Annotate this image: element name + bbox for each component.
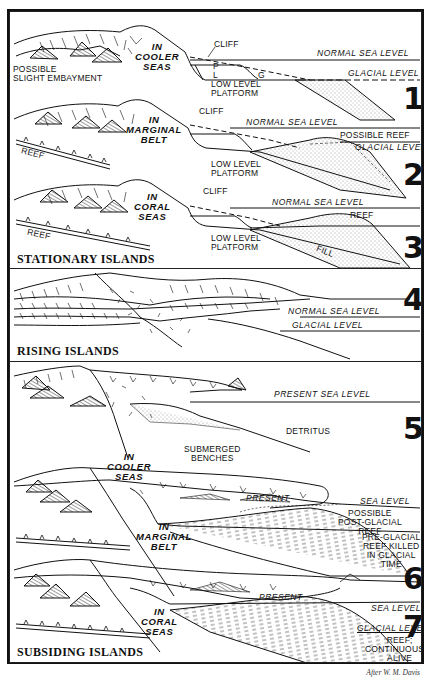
panel-4-glacial-level: GLACIAL LEVEL <box>292 321 363 330</box>
label-line: SLIGHT EMBAYMENT <box>13 74 102 83</box>
panel-2-normal-sea-level: NORMAL SEA LEVEL <box>246 118 338 127</box>
panel-3-number: 3 <box>403 233 422 263</box>
panel-5-detritus-label: DETRITUS <box>286 427 330 436</box>
figure-credit: After W. M. Davis <box>366 668 420 677</box>
panel-3-normal-sea-level: NORMAL SEA LEVEL <box>272 198 364 207</box>
label-line: PLATFORM <box>211 169 261 178</box>
panel-4-normal-sea-level: NORMAL SEA LEVEL <box>288 307 380 316</box>
panel-7-number: 7 <box>403 612 422 642</box>
setting-line: SEAS <box>134 212 171 222</box>
panel-1-glacial-level: GLACIAL LEVEL <box>348 69 419 78</box>
panel-6-number: 6 <box>403 564 422 594</box>
stationary-islands-panel: IN COOLER SEAS POSSIBLE SLIGHT EMBAYMENT… <box>9 11 422 269</box>
setting-line: SEAS <box>141 627 178 637</box>
panel-3-cliff-label: CLIFF <box>203 187 228 196</box>
panel-1-platform-label: LOW LEVEL PLATFORM <box>211 80 261 98</box>
panel-2-cliff-label: CLIFF <box>199 107 224 116</box>
panel-1-embayment-label: POSSIBLE SLIGHT EMBAYMENT <box>13 65 102 83</box>
panel-6-sea-level-label: SEA LEVEL <box>360 497 410 506</box>
panel-7-setting: IN CORAL SEAS <box>141 607 178 637</box>
panel-3-platform-label: LOW LEVEL PLATFORM <box>211 234 261 252</box>
rising-islands-panel: NORMAL SEA LEVEL GLACIAL LEVEL 4 RISING … <box>9 268 422 362</box>
label-line: ALIVE <box>365 654 422 663</box>
panel-1-normal-sea-level: NORMAL SEA LEVEL <box>317 49 409 58</box>
panel-4-number: 4 <box>403 285 422 315</box>
setting-line: SEAS <box>107 472 151 482</box>
panel-6-setting: IN MARGINAL BELT <box>136 522 192 552</box>
subsiding-islands-title: SUBSIDING ISLANDS <box>17 645 143 660</box>
stationary-islands-title: STATIONARY ISLANDS <box>17 252 155 267</box>
panel-2-glacial-level: GLACIAL LEVEL <box>355 143 422 152</box>
subsiding-islands-panel: PRESENT SEA LEVEL IN COOLER SEAS DETRITU… <box>9 361 422 663</box>
setting-line: SEAS <box>135 62 179 72</box>
panel-1-setting: IN COOLER SEAS <box>135 42 179 72</box>
panel-1-cliff-label: CLIFF <box>214 40 239 49</box>
panel-2-number: 2 <box>403 160 422 190</box>
panel-3-setting: IN CORAL SEAS <box>134 192 171 222</box>
label-line: BENCHES <box>184 454 241 463</box>
panel-5-benches-label: SUBMERGED BENCHES <box>184 445 241 463</box>
panel-1-number: 1 <box>403 84 422 114</box>
setting-line: BELT <box>136 542 192 552</box>
panel-5-number: 5 <box>403 414 422 444</box>
panel-5-present-sea-level: PRESENT SEA LEVEL <box>274 390 371 399</box>
label-line: PLATFORM <box>211 89 261 98</box>
panel-3-reef-label: REEF <box>350 211 373 220</box>
setting-line: BELT <box>126 135 182 145</box>
panel-2-platform-label: LOW LEVEL PLATFORM <box>211 160 261 178</box>
panel-2-setting: IN MARGINAL BELT <box>126 115 182 145</box>
label-line: PLATFORM <box>211 243 261 252</box>
panel-5-setting: IN COOLER SEAS <box>107 452 151 482</box>
panel-7-present-label: PRESENT <box>259 593 303 602</box>
rising-islands-title: RISING ISLANDS <box>17 344 119 359</box>
panel-2-possible-reef: POSSIBLE REEF <box>340 131 410 140</box>
panel-6-present-label: PRESENT <box>246 494 290 503</box>
